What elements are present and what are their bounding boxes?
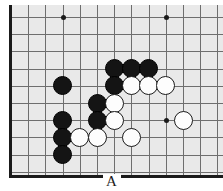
gridline-horizontal (9, 137, 223, 138)
gridline-horizontal (9, 17, 223, 18)
star-point (164, 118, 169, 123)
black-stone (53, 145, 72, 164)
black-stone (88, 111, 107, 130)
white-stone (105, 94, 124, 113)
go-board-figure: A (0, 0, 223, 191)
white-stone (88, 128, 107, 147)
white-stone (174, 111, 193, 130)
black-stone (105, 59, 124, 78)
black-stone (88, 94, 107, 113)
gridline-vertical (183, 5, 184, 176)
black-stone (53, 76, 72, 95)
board-left-edge (9, 5, 12, 176)
white-stone (156, 76, 175, 95)
white-stone (105, 111, 124, 130)
gridline-horizontal (9, 155, 223, 156)
gridline-horizontal (9, 51, 223, 52)
black-stone (139, 59, 158, 78)
gridline-vertical (97, 5, 98, 176)
black-stone (53, 128, 72, 147)
white-stone (70, 128, 89, 147)
star-point (61, 15, 66, 20)
black-stone (53, 111, 72, 130)
gridline-vertical (217, 5, 218, 176)
white-stone (139, 76, 158, 95)
go-board[interactable] (9, 5, 223, 176)
white-stone (122, 128, 141, 147)
point-label-a: A (0, 172, 223, 190)
black-stone (105, 76, 124, 95)
gridline-vertical (80, 5, 81, 176)
star-point (164, 15, 169, 20)
black-stone (122, 59, 141, 78)
gridline-horizontal (9, 34, 223, 35)
gridline-vertical (28, 5, 29, 176)
white-stone (122, 76, 141, 95)
gridline-vertical (45, 5, 46, 176)
gridline-vertical (200, 5, 201, 176)
